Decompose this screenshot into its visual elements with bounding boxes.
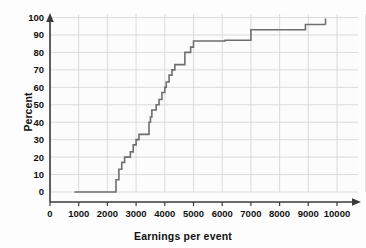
x-tick-label: 5000 <box>183 208 204 219</box>
y-tick-label: 100 <box>28 12 44 23</box>
y-tick-label: 10 <box>33 169 44 180</box>
x-axis-title: Earnings per event <box>0 226 366 244</box>
y-tick-label: 70 <box>33 64 44 75</box>
y-tick-label: 80 <box>33 47 44 58</box>
x-tick-label: 1000 <box>68 208 89 219</box>
x-tick-label: 10000 <box>324 208 350 219</box>
y-axis-title-text: Percent <box>22 92 34 131</box>
y-tick-label: 90 <box>33 29 44 40</box>
y-tick-label: 20 <box>33 152 44 163</box>
x-tick-label: 6000 <box>212 208 233 219</box>
x-tick-label: 7000 <box>240 208 261 219</box>
x-axis-title-text: Earnings per event <box>134 230 232 242</box>
x-tick-label: 8000 <box>269 208 290 219</box>
chart-container: 0100020003000400050006000700080009000100… <box>0 0 366 248</box>
y-tick-label: 60 <box>33 82 44 93</box>
x-tick-label: 0 <box>47 208 52 219</box>
x-tick-label: 3000 <box>126 208 147 219</box>
y-tick-label: 0 <box>39 186 44 197</box>
y-tick-label: 40 <box>33 117 44 128</box>
x-tick-label: 9000 <box>298 208 319 219</box>
x-tick-label: 2000 <box>97 208 118 219</box>
x-tick-label: 4000 <box>154 208 175 219</box>
y-axis-title: Percent <box>18 64 34 160</box>
y-tick-label: 50 <box>33 99 44 110</box>
y-tick-label: 30 <box>33 134 44 145</box>
ecdf-plot: 0100020003000400050006000700080009000100… <box>0 0 366 248</box>
